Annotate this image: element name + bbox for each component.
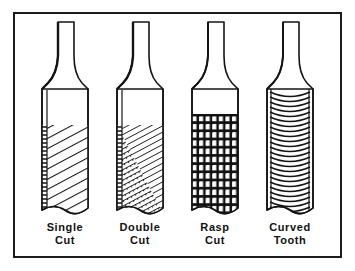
file-curved-tooth xyxy=(267,22,313,214)
file-double-cut xyxy=(117,22,163,215)
label-curved-tooth-line1: Curved xyxy=(245,221,335,234)
rasp-teeth-area xyxy=(192,114,238,215)
label-curved-tooth: Curved Tooth xyxy=(245,221,335,247)
file-single-cut xyxy=(42,22,88,215)
file-cut-types-figure: Single Cut Double Cut Rasp Cut Curved To… xyxy=(0,0,355,271)
label-curved-tooth-line2: Tooth xyxy=(245,234,335,247)
file-rasp-cut xyxy=(192,22,238,215)
